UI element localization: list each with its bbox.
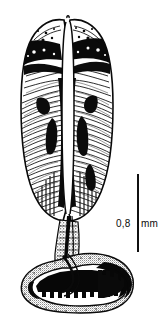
scalebar-value-label: 0,8 <box>116 219 131 229</box>
median-cleft <box>62 16 74 214</box>
scalebar-line <box>137 174 139 252</box>
scalebar-unit-label: mm <box>141 219 158 229</box>
specimen-illustration <box>0 0 164 324</box>
figure-canvas: 0,8 mm <box>0 0 164 324</box>
